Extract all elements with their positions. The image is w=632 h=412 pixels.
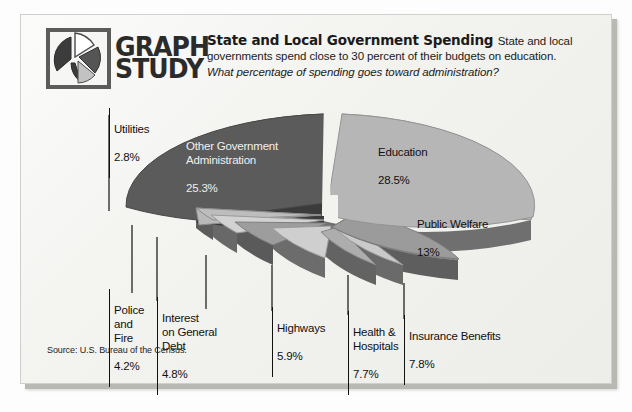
callout-health-and-hospitals: Health & Hospitals 7.7% <box>348 311 399 395</box>
callout-other-gov-value: 25.3% <box>186 181 278 195</box>
callout-education: Education 28.5% <box>378 131 427 201</box>
callout-police-name: Police and Fire <box>114 303 144 345</box>
source-note: Source: U.S. Bureau of the Census. <box>47 345 187 355</box>
callout-utilities-value: 2.8% <box>114 150 149 164</box>
graph-study-card: GRAPH STUDY State and Local Government S… <box>20 14 612 384</box>
callout-utilities: Utilities 2.8% <box>109 108 149 178</box>
callout-public-welfare-name: Public Welfare <box>417 217 488 231</box>
callout-other-government-administration: Other Government Administration 25.3% <box>186 125 278 209</box>
callout-police-and-fire: Police and Fire 4.2% <box>109 289 144 387</box>
callout-highways-value: 5.9% <box>277 349 325 363</box>
screenshot-root: GRAPH STUDY State and Local Government S… <box>0 0 632 412</box>
callout-health-value: 7.7% <box>353 367 399 381</box>
callout-education-name: Education <box>378 145 427 159</box>
callout-insurance-name: Insurance Benefits <box>409 329 501 343</box>
callout-utilities-name: Utilities <box>114 122 149 136</box>
callout-insurance-value: 7.8% <box>409 357 501 371</box>
callout-public-welfare: Public Welfare 13% <box>417 203 488 273</box>
callout-insurance-benefits: Insurance Benefits 7.8% <box>404 315 501 385</box>
callout-highways: Highways 5.9% <box>272 307 325 377</box>
callout-interest-value: 4.8% <box>162 367 217 381</box>
callout-police-value: 4.2% <box>114 359 144 373</box>
callout-health-name: Health & Hospitals <box>353 325 399 353</box>
callout-other-gov-name: Other Government Administration <box>186 139 278 167</box>
callout-public-welfare-value: 13% <box>417 245 488 259</box>
callout-education-value: 28.5% <box>378 173 427 187</box>
callout-highways-name: Highways <box>277 321 325 335</box>
